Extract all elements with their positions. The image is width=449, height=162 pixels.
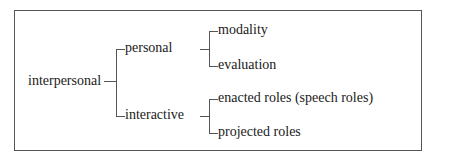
connector [104, 81, 116, 82]
connector [209, 31, 218, 32]
node-personal: personal [125, 40, 172, 56]
bracket-line [209, 31, 210, 66]
bracket-line [209, 99, 210, 133]
node-projected-roles: projected roles [218, 124, 301, 140]
connector [209, 133, 218, 134]
node-interactive: interactive [125, 107, 184, 123]
node-interpersonal: interpersonal [28, 73, 101, 89]
connector [116, 116, 125, 117]
node-modality: modality [218, 22, 268, 38]
connector [209, 99, 218, 100]
connector [209, 66, 218, 67]
node-evaluation: evaluation [218, 57, 276, 73]
node-enacted-roles: enacted roles (speech roles) [218, 90, 373, 106]
connector [116, 49, 125, 50]
bracket-line [116, 49, 117, 116]
